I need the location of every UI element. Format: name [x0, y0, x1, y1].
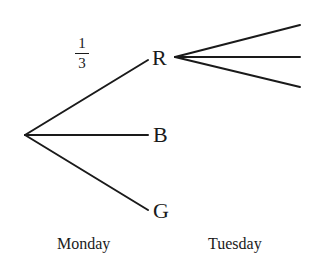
- branch-root-to-r: [25, 60, 148, 135]
- stage-label-monday: Monday: [57, 236, 110, 252]
- stage-label-tuesday: Tuesday: [208, 236, 262, 252]
- probability-tree-diagram: 1 3 R B G Monday Tuesday: [0, 0, 310, 265]
- node-r: R: [152, 47, 167, 69]
- branch-probability-fraction: 1 3: [75, 36, 89, 71]
- node-g: G: [153, 200, 169, 222]
- fraction-numerator: 1: [78, 35, 86, 51]
- branch-root-to-g: [25, 135, 148, 210]
- fraction-denominator: 3: [78, 55, 86, 71]
- fraction-bar: [75, 53, 89, 54]
- node-b: B: [153, 124, 168, 146]
- branch-r-to-tuesday-3: [175, 57, 300, 87]
- branch-r-to-tuesday-1: [175, 25, 300, 57]
